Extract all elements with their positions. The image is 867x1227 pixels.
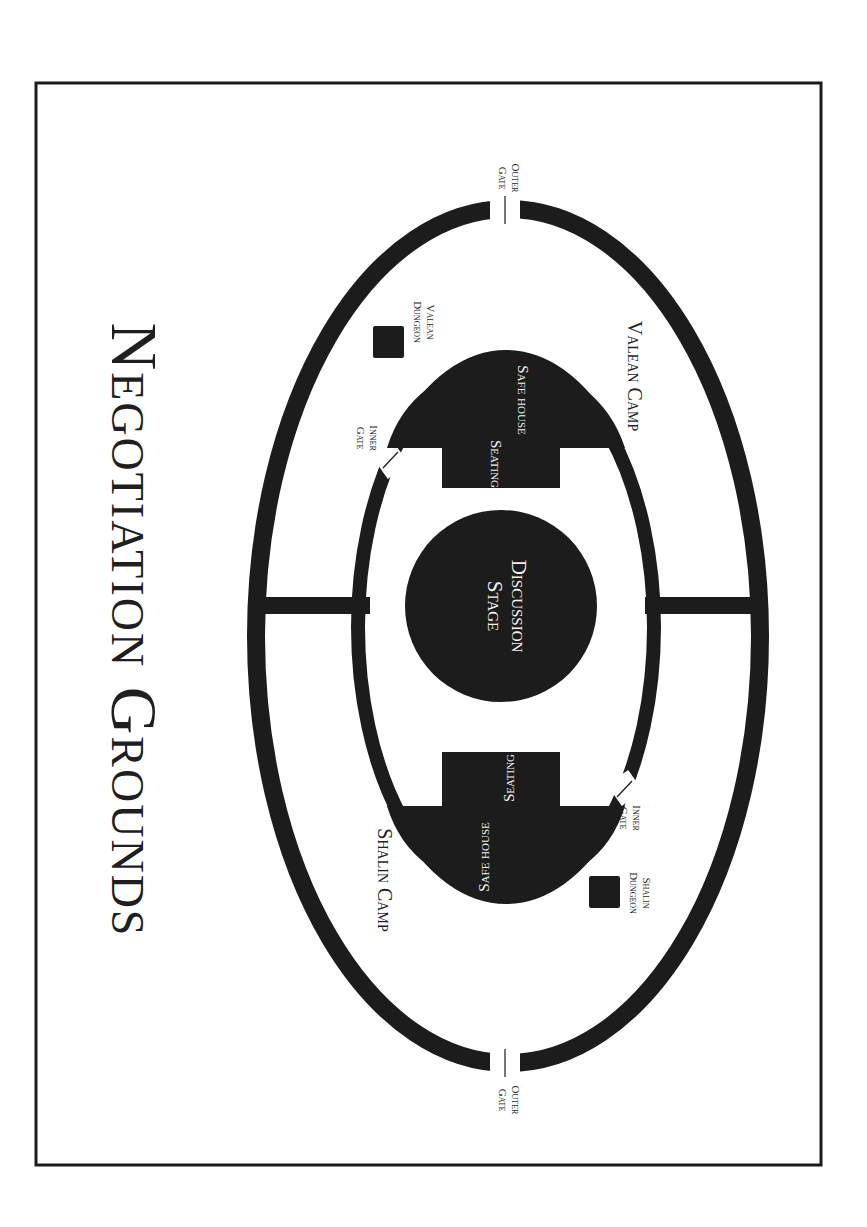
svg-text:Dungeon: Dungeon [628, 872, 640, 914]
shalin-safe-house: Safe house Seating [387, 752, 625, 892]
map-title: Negotiation Grounds [98, 323, 171, 938]
valean-safe-house: Safe house Seating [387, 360, 625, 488]
svg-text:Gate: Gate [497, 167, 509, 190]
svg-text:Gate: Gate [618, 807, 630, 830]
valean-dungeon-label: Valean Dungeon [412, 301, 437, 343]
svg-text:Outer: Outer [510, 164, 522, 193]
map-page: Negotiation Grounds Safe house Seating [0, 0, 867, 1227]
shalin-dungeon [589, 876, 620, 908]
valean-dungeon [373, 326, 404, 358]
svg-text:Shalin Camp: Shalin Camp [374, 828, 396, 932]
svg-text:Shalin: Shalin [641, 877, 653, 908]
svg-text:Dungeon: Dungeon [412, 301, 424, 343]
negotiation-grounds-map: Negotiation Grounds Safe house Seating [0, 0, 867, 1227]
discussion-stage-label-line2: Stage [483, 581, 507, 631]
svg-text:Inner: Inner [631, 805, 643, 831]
safe-house-top-label: Safe house [515, 365, 531, 435]
svg-text:Gate: Gate [355, 427, 367, 450]
svg-text:Valean: Valean [425, 304, 437, 339]
svg-text:Gate: Gate [497, 1089, 509, 1112]
svg-text:Outer: Outer [510, 1086, 522, 1115]
map-title-text: Negotiation Grounds [98, 323, 171, 938]
svg-text:Inner: Inner [368, 425, 380, 451]
valean-camp-label: Valean Camp [624, 321, 646, 432]
seating-top-label: Seating [488, 440, 504, 488]
svg-text:Valean Camp: Valean Camp [624, 321, 646, 432]
shalin-dungeon-label: Shalin Dungeon [628, 872, 653, 914]
discussion-stage-label-line1: Discussion [507, 560, 531, 653]
outer-gate-top-label: Outer Gate [497, 164, 522, 193]
inner-gate-bottom-label: Inner Gate [618, 805, 643, 831]
east-connector-wall [645, 597, 763, 614]
shalin-camp-label: Shalin Camp [374, 828, 396, 932]
inner-gate-top-label: Inner Gate [355, 425, 380, 451]
safe-house-bottom-label: Safe house [476, 822, 492, 892]
outer-gate-bottom-label: Outer Gate [497, 1086, 522, 1115]
seating-bottom-label: Seating [501, 754, 517, 802]
